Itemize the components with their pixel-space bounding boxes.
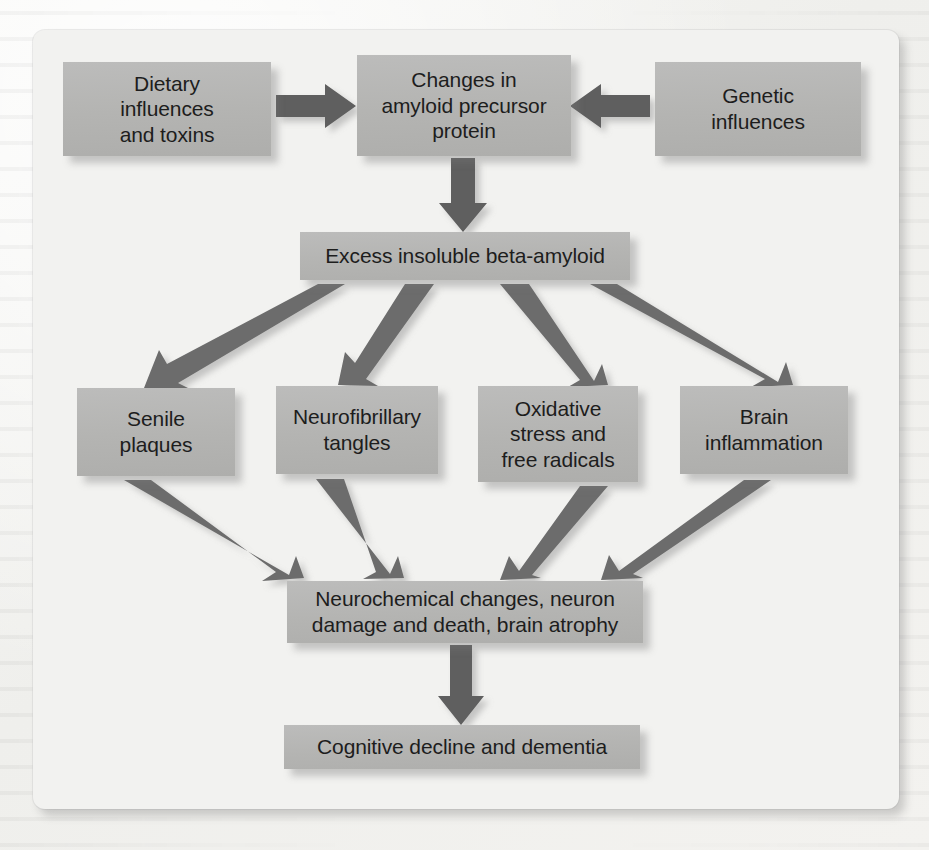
node-brain-inflammation[interactable]: Brain inflammation: [680, 386, 848, 474]
node-excess-insoluble-beta-amyloid[interactable]: Excess insoluble beta-amyloid: [300, 232, 630, 280]
node-line: and toxins: [120, 122, 215, 148]
node-line: Neurochemical changes, neuron: [312, 586, 618, 612]
node-line: Genetic: [711, 83, 805, 109]
arrow-oxidative-to-neurochem: [500, 486, 608, 580]
node-line: protein: [381, 118, 546, 144]
node-oxidative-stress-and-free-radicals[interactable]: Oxidative stress and free radicals: [478, 386, 638, 482]
node-line: amyloid precursor: [381, 93, 546, 119]
arrow-neurochem-to-cognitive: [438, 645, 484, 725]
arrow-dietary-to-app: [276, 84, 356, 128]
node-cognitive-decline-and-dementia[interactable]: Cognitive decline and dementia: [284, 725, 640, 769]
node-line: Senile: [120, 406, 193, 432]
node-line: free radicals: [501, 447, 614, 473]
node-neurofibrillary-tangles[interactable]: Neurofibrillary tangles: [276, 386, 438, 474]
node-changes-in-amyloid-precursor-protein[interactable]: Changes in amyloid precursor protein: [357, 55, 571, 156]
node-line: Oxidative: [501, 396, 614, 422]
arrow-app-to-beta: [439, 158, 487, 232]
arrow-beta-to-inflammation: [590, 284, 793, 387]
arrow-senile-to-neurochem: [124, 480, 304, 581]
node-line: tangles: [293, 430, 421, 456]
arrow-beta-to-oxidative: [500, 284, 608, 387]
arrow-beta-to-senile: [144, 284, 345, 390]
node-line: Neurofibrillary: [293, 404, 421, 430]
scanned-page: Dietary influences and toxins Changes in…: [0, 0, 929, 850]
node-dietary-influences-and-toxins[interactable]: Dietary influences and toxins: [63, 62, 271, 156]
node-line: stress and: [501, 421, 614, 447]
node-line: Changes in: [381, 67, 546, 93]
node-line: Excess insoluble beta-amyloid: [325, 243, 605, 269]
node-senile-plaques[interactable]: Senile plaques: [77, 388, 235, 476]
node-line: plaques: [120, 432, 193, 458]
node-neurochemical-changes-neuron-damage-death-brain-atrophy[interactable]: Neurochemical changes, neuron damage and…: [287, 581, 643, 643]
arrow-beta-to-tangles: [338, 284, 434, 386]
node-line: Brain: [705, 404, 823, 430]
node-genetic-influences[interactable]: Genetic influences: [655, 62, 861, 156]
node-line: influences: [711, 109, 805, 135]
node-line: inflammation: [705, 430, 823, 456]
arrow-inflammation-to-neurochem: [601, 480, 771, 580]
arrow-tangles-to-neurochem: [316, 479, 404, 579]
node-line: Cognitive decline and dementia: [317, 734, 607, 760]
arrow-genetic-to-app: [570, 84, 650, 128]
node-line: influences: [120, 96, 215, 122]
node-line: Dietary: [120, 71, 215, 97]
node-line: damage and death, brain atrophy: [312, 612, 618, 638]
